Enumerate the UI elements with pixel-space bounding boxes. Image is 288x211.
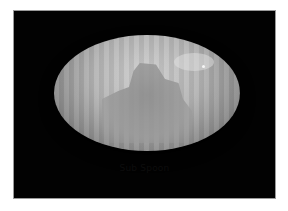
reflection-highlight [174,53,214,71]
photo-frame: Sub Spoon [13,10,276,199]
ellipsoid-object [54,35,240,151]
specular-sparkle [202,65,205,68]
reflected-silhouette [102,63,192,143]
image-caption: Sub Spoon [14,163,275,173]
